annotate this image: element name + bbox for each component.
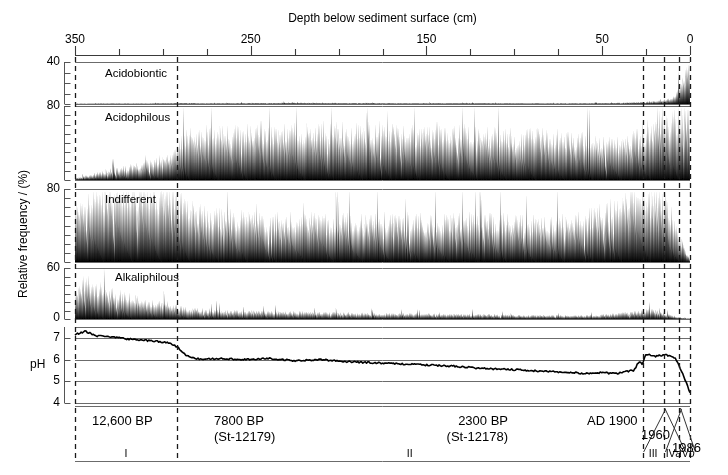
date-marker-7800bp: 7800 BP [214,414,264,427]
x-tick-label-50: 50 [595,33,608,45]
y-tick-ph-5: 5 [53,374,60,386]
zone-label-iii: III [649,448,658,459]
y-tick-acidobiontic-40: 40 [47,55,60,67]
x-tick-label-0: 0 [687,33,694,45]
date-sublabel-st12178: (St-12178) [447,430,508,443]
y-tick-alkaliphilous-60: 60 [47,261,60,273]
zone-label-i: I [124,448,127,459]
date-marker-12600bp: 12,600 BP [92,414,153,427]
y-tick-alkaliphilous-0: 0 [53,311,60,323]
y-tick-ph-4: 4 [53,396,60,408]
date-marker-1960: 1960 [641,428,670,441]
date-marker-ad1900: AD 1900 [587,414,638,427]
y-tick-ph-7: 7 [53,331,60,343]
y-tick-acidophilous-80: 80 [47,99,60,111]
panel-label-acidobiontic: Acidobiontic [105,68,167,80]
panel-label-acidophilous: Acidophilous [105,112,170,124]
x-tick-label-250: 250 [241,33,261,45]
y-axis-title: Relative frequency / (%) [16,170,30,298]
panel-label-alkaliphilous: Alkaliphilous [115,272,179,284]
ph-axis-label: pH [30,358,45,370]
panel-label-indifferent: Indifferent [105,194,156,206]
figure-root: Depth below sediment surface (cm) Relati… [0,0,728,475]
zone-label-ivb: IVb [679,448,695,459]
x-tick-label-350: 350 [65,33,85,45]
y-tick-indifferent-80: 80 [47,182,60,194]
x-tick-label-150: 150 [416,33,436,45]
date-sublabel-st12179: (St-12179) [214,430,275,443]
zone-label-ii: II [407,448,413,459]
y-tick-ph-6: 6 [53,353,60,365]
date-marker-2300bp: 2300 BP [458,414,508,427]
x-axis-title: Depth below sediment surface (cm) [288,12,477,24]
